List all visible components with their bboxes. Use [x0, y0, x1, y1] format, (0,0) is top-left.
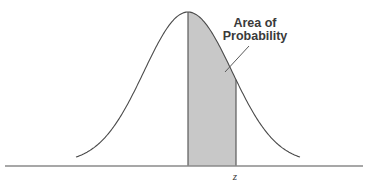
normal-distribution-diagram: Area of Probability z: [0, 0, 366, 187]
annotation-leader-line: [225, 46, 249, 72]
annotation-line-1: Area of: [233, 16, 277, 30]
annotation-line-2: Probability: [223, 29, 288, 43]
z-axis-label: z: [232, 170, 238, 182]
